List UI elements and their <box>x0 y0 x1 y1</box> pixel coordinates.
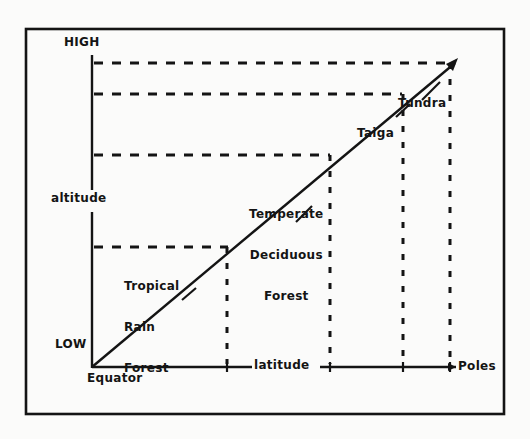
biome-label-tundra: Tundra <box>398 69 446 138</box>
biome-label-tundra-line-1: Tundra <box>398 97 446 111</box>
biome-label-taiga-line-1: Taiga <box>357 127 394 141</box>
biome-label-tropical-rain-forest: Tropical Rain Forest <box>124 252 179 404</box>
biome-diagram-figure: HIGH LOW altitude latitude Equator Poles… <box>0 0 530 439</box>
biome-label-trf-line-1: Tropical <box>124 280 179 294</box>
axis-label-poles: Poles <box>458 360 496 374</box>
axis-label-low: LOW <box>55 338 87 352</box>
axis-title-latitude: latitude <box>252 359 311 373</box>
biome-label-temperate-deciduous-forest: Temperate Deciduous Forest <box>249 180 324 332</box>
biome-label-trf-line-2: Rain <box>124 321 179 335</box>
biome-label-taiga: Taiga <box>357 99 394 168</box>
biome-label-tdf-line-1: Temperate <box>249 208 324 222</box>
biome-label-tdf-line-3: Forest <box>249 290 324 304</box>
axis-title-altitude: altitude <box>51 192 106 206</box>
axis-label-high: HIGH <box>64 36 100 50</box>
biome-label-tdf-line-2: Deciduous <box>249 249 324 263</box>
biome-label-trf-line-3: Forest <box>124 362 179 376</box>
